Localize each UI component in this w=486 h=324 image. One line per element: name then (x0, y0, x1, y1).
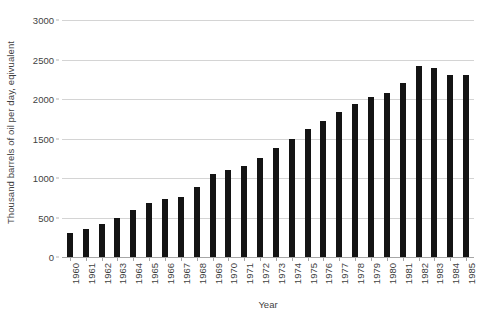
bar-slot (347, 20, 363, 257)
bar-slot (458, 20, 474, 257)
bar (194, 187, 200, 257)
x-axis-tick: 1984 (442, 258, 458, 298)
x-axis-tick-mark (70, 258, 71, 261)
bar-slot (125, 20, 141, 257)
plot-area (62, 20, 474, 257)
y-axis-tick-label: 2000 (33, 94, 54, 105)
x-axis-tick: 1974 (284, 258, 300, 298)
x-axis-tick-mark (86, 258, 87, 261)
bar-slot (411, 20, 427, 257)
bar-slot (62, 20, 78, 257)
bar (400, 83, 406, 257)
x-axis-tick-mark (308, 258, 309, 261)
x-axis-tick: 1985 (458, 258, 474, 298)
bar-slot (236, 20, 252, 257)
y-axis-tick-label: 3000 (33, 15, 54, 26)
x-axis-tick-mark (181, 258, 182, 261)
x-axis-tick-mark (133, 258, 134, 261)
bar (130, 210, 136, 257)
x-axis-tick-mark (276, 258, 277, 261)
x-axis-tick-mark (387, 258, 388, 261)
x-axis-tick: 1973 (268, 258, 284, 298)
bar-slot (363, 20, 379, 257)
x-axis-tick: 1960 (62, 258, 78, 298)
bar-slot (300, 20, 316, 257)
bar (416, 66, 422, 257)
x-axis-tick-mark (450, 258, 451, 261)
x-axis-tick: 1979 (363, 258, 379, 298)
bar (463, 75, 469, 257)
x-axis-tick-mark (292, 258, 293, 261)
bar (67, 233, 73, 257)
bar-slot (157, 20, 173, 257)
bar (146, 203, 152, 257)
bar-slot (252, 20, 268, 257)
x-axis-tick: 1966 (157, 258, 173, 298)
x-axis-tick: 1971 (236, 258, 252, 298)
x-axis-tick: 1983 (426, 258, 442, 298)
x-axis-tick-labels: 1960196119621963196419651966196719681969… (62, 258, 474, 298)
y-axis-tick-label: 2500 (33, 54, 54, 65)
bar (431, 68, 437, 257)
bar (273, 148, 279, 257)
bar (99, 224, 105, 257)
bar-slot (268, 20, 284, 257)
bar-slot (442, 20, 458, 257)
y-axis-tick-mark (56, 59, 59, 60)
y-axis-tick-label: 0 (49, 252, 54, 263)
x-axis-tick: 1982 (411, 258, 427, 298)
bar (210, 174, 216, 257)
bar (320, 121, 326, 257)
x-axis-tick: 1965 (141, 258, 157, 298)
x-axis-tick: 1962 (94, 258, 110, 298)
x-axis-tick-mark (165, 258, 166, 261)
x-axis-tick-label: 1985 (466, 263, 477, 284)
y-axis-tick-labels: 050010001500200025003000 (22, 0, 59, 264)
bar (257, 158, 263, 257)
x-axis-tick: 1964 (125, 258, 141, 298)
y-axis-tick-mark (56, 257, 59, 258)
x-axis-tick: 1975 (300, 258, 316, 298)
x-axis-tick: 1980 (379, 258, 395, 298)
x-axis-tick-mark (434, 258, 435, 261)
bar-slot (331, 20, 347, 257)
x-axis-tick: 1976 (316, 258, 332, 298)
x-axis-tick-mark (403, 258, 404, 261)
bar-slot (173, 20, 189, 257)
y-axis-tick-mark (56, 138, 59, 139)
y-axis-tick-mark (56, 217, 59, 218)
bar (336, 112, 342, 257)
x-axis-tick-mark (117, 258, 118, 261)
bar-slot (284, 20, 300, 257)
x-axis-tick-mark (102, 258, 103, 261)
x-axis-tick-mark (260, 258, 261, 261)
bar-slot (78, 20, 94, 257)
x-axis-tick: 1969 (205, 258, 221, 298)
bar-slot (379, 20, 395, 257)
bar-slot (395, 20, 411, 257)
x-axis-tick: 1978 (347, 258, 363, 298)
x-axis-tick-mark (419, 258, 420, 261)
bar (368, 97, 374, 257)
x-axis-tick-mark (355, 258, 356, 261)
x-axis-tick: 1977 (331, 258, 347, 298)
bar (83, 229, 89, 257)
x-axis-tick: 1968 (189, 258, 205, 298)
x-axis-tick: 1981 (395, 258, 411, 298)
bar (289, 139, 295, 258)
bar (114, 218, 120, 258)
x-axis-tick-mark (466, 258, 467, 261)
x-axis-title: Year (62, 299, 474, 310)
x-axis-tick: 1963 (110, 258, 126, 298)
bar-slot (189, 20, 205, 257)
bar (178, 197, 184, 257)
bar-slot (110, 20, 126, 257)
bar-slot (205, 20, 221, 257)
bar-slot (220, 20, 236, 257)
x-axis-tick: 1970 (220, 258, 236, 298)
bar-slot (426, 20, 442, 257)
y-axis-title: Thousand barrels of oil per day, eqivual… (0, 0, 22, 264)
x-axis-tick-mark (213, 258, 214, 261)
bar (384, 93, 390, 257)
bar-slot (316, 20, 332, 257)
